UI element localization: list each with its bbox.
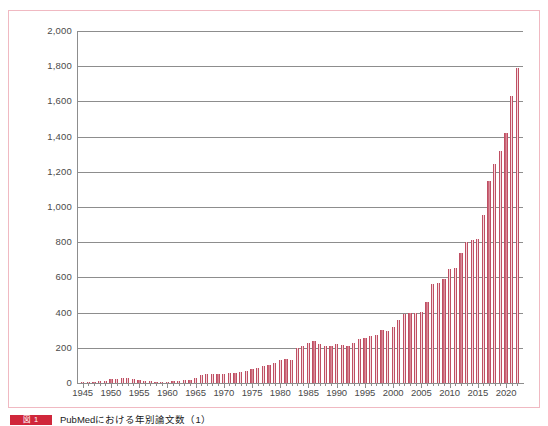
bar-1993 xyxy=(352,343,355,383)
x-tick-mark-2003 xyxy=(410,383,411,386)
x-tick-mark-2011 xyxy=(455,383,456,386)
bar-2018 xyxy=(493,164,496,383)
x-tick-mark-1993 xyxy=(354,383,355,386)
bar-2004 xyxy=(414,313,417,383)
x-tick-mark-1982 xyxy=(292,383,293,386)
bar-2016 xyxy=(482,215,485,383)
x-tick-mark-1954 xyxy=(133,383,134,386)
x-tick-mark-1989 xyxy=(331,383,332,386)
x-tick-mark-1988 xyxy=(325,383,326,386)
x-tick-mark-1972 xyxy=(235,383,236,386)
bar-1996 xyxy=(369,336,372,383)
x-tick-label-1955: 1955 xyxy=(129,388,150,398)
y-tick-label-1400: 1,400 xyxy=(26,132,72,142)
y-tick-label-1800: 1,800 xyxy=(26,61,72,71)
bar-1974 xyxy=(245,371,248,383)
x-tick-mark-2013 xyxy=(467,383,468,386)
plot-area xyxy=(77,31,523,383)
bar-2013 xyxy=(465,242,468,383)
x-tick-mark-1998 xyxy=(382,383,383,386)
x-tick-mark-2016 xyxy=(483,383,484,386)
x-tick-mark-1987 xyxy=(320,383,321,386)
x-tick-mark-1992 xyxy=(348,383,349,386)
x-tick-mark-1996 xyxy=(371,383,372,386)
x-tick-mark-1948 xyxy=(100,383,101,386)
bar-2005 xyxy=(420,312,423,383)
figure-page: 02004006008001,0001,2001,4001,6001,8002,… xyxy=(0,0,548,426)
bar-1985 xyxy=(307,343,310,383)
bar-1980 xyxy=(279,360,282,383)
x-tick-mark-1949 xyxy=(105,383,106,386)
x-tick-mark-1977 xyxy=(263,383,264,386)
bar-1983 xyxy=(296,348,299,383)
x-tick-label-2000: 2000 xyxy=(383,388,404,398)
x-tick-mark-2018 xyxy=(495,383,496,386)
x-tick-mark-1957 xyxy=(150,383,151,386)
x-tick-mark-2017 xyxy=(489,383,490,386)
y-tick-label-0: 0 xyxy=(26,378,72,388)
x-tick-label-2015: 2015 xyxy=(467,388,488,398)
y-tick-label-2000: 2,000 xyxy=(26,26,72,36)
y-tick-label-1600: 1,600 xyxy=(26,97,72,107)
x-tick-mark-1963 xyxy=(184,383,185,386)
figure-caption: 図 1 PubMedにおける年別論文数（1） xyxy=(10,414,211,426)
x-tick-mark-2008 xyxy=(438,383,439,386)
bar-1987 xyxy=(318,344,321,383)
bar-1973 xyxy=(239,372,242,383)
x-tick-mark-1947 xyxy=(94,383,95,386)
bar-2022 xyxy=(516,68,519,383)
bar-1981 xyxy=(284,359,287,383)
x-tick-label-1995: 1995 xyxy=(355,388,376,398)
bar-1995 xyxy=(363,338,366,383)
bar-1977 xyxy=(262,366,265,383)
gridline-2000 xyxy=(77,31,523,32)
x-tick-mark-2019 xyxy=(500,383,501,386)
x-tick-mark-1973 xyxy=(241,383,242,386)
bar-1978 xyxy=(267,365,270,383)
bar-2002 xyxy=(403,314,406,383)
gridline-1800 xyxy=(77,66,523,67)
gridline-800 xyxy=(77,242,523,243)
x-tick-mark-2021 xyxy=(512,383,513,386)
x-tick-label-2005: 2005 xyxy=(411,388,432,398)
bar-2006 xyxy=(425,302,428,383)
x-tick-label-1985: 1985 xyxy=(298,388,319,398)
x-tick-mark-1999 xyxy=(388,383,389,386)
bar-2000 xyxy=(392,327,395,383)
bar-1986 xyxy=(312,341,315,383)
x-tick-label-1990: 1990 xyxy=(326,388,347,398)
bar-2020 xyxy=(504,133,507,383)
bar-1998 xyxy=(380,330,383,383)
bar-1994 xyxy=(358,339,361,383)
bar-2008 xyxy=(437,283,440,383)
x-tick-mark-1979 xyxy=(275,383,276,386)
x-tick-mark-2014 xyxy=(472,383,473,386)
bar-2007 xyxy=(431,284,434,383)
figure-caption-text: PubMedにおける年別論文数（1） xyxy=(60,415,211,425)
x-tick-mark-1958 xyxy=(156,383,157,386)
bar-1982 xyxy=(290,360,293,383)
x-tick-mark-1967 xyxy=(207,383,208,386)
x-tick-mark-1953 xyxy=(128,383,129,386)
bar-1989 xyxy=(329,346,332,383)
bar-2009 xyxy=(442,279,445,383)
bar-1984 xyxy=(301,346,304,383)
x-tick-mark-1978 xyxy=(269,383,270,386)
x-tick-mark-1984 xyxy=(303,383,304,386)
x-tick-mark-1961 xyxy=(173,383,174,386)
x-tick-mark-2004 xyxy=(416,383,417,386)
gridline-1000 xyxy=(77,207,523,208)
y-tick-label-1200: 1,200 xyxy=(26,167,72,177)
bar-1966 xyxy=(200,375,203,383)
bar-1997 xyxy=(375,335,378,383)
bar-2001 xyxy=(397,320,400,383)
gridline-1400 xyxy=(77,137,523,138)
x-tick-mark-1968 xyxy=(212,383,213,386)
bar-2011 xyxy=(454,268,457,383)
bar-1969 xyxy=(216,374,219,383)
bar-2010 xyxy=(448,269,451,383)
x-tick-mark-2002 xyxy=(404,383,405,386)
x-tick-mark-1966 xyxy=(201,383,202,386)
x-tick-mark-2012 xyxy=(461,383,462,386)
x-tick-label-2020: 2020 xyxy=(496,388,517,398)
